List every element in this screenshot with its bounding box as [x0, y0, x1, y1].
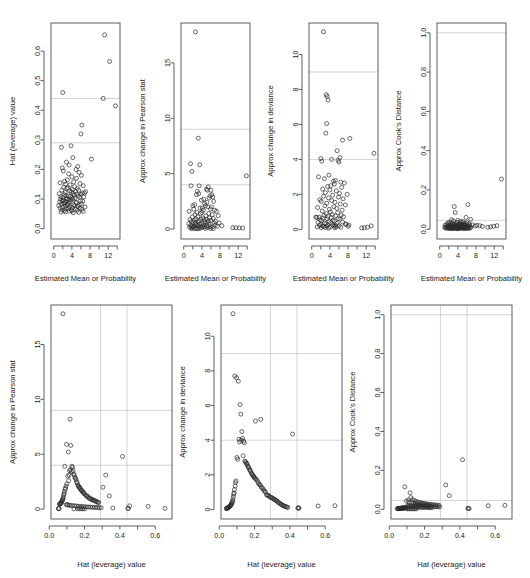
svg-text:0.0: 0.0 [214, 531, 224, 540]
svg-text:0.6: 0.6 [490, 531, 500, 540]
svg-text:0.2: 0.2 [420, 531, 430, 540]
svg-text:4: 4 [203, 438, 212, 442]
svg-text:0: 0 [52, 251, 56, 260]
x-axis: 0.00.20.40.6 [384, 526, 500, 540]
svg-text:0.0: 0.0 [33, 224, 42, 234]
reference-lines [51, 98, 120, 142]
svg-text:10: 10 [163, 114, 172, 122]
svg-text:0: 0 [291, 227, 300, 231]
svg-text:10: 10 [33, 395, 42, 403]
svg-text:12: 12 [234, 251, 242, 260]
y-axis-label: Hat (leverage) value [8, 97, 17, 165]
svg-text:0.2: 0.2 [250, 531, 260, 540]
x-axis: 0.00.20.40.6 [44, 526, 160, 540]
y-axis-label: Approx change in deviance [266, 85, 275, 177]
x-axis-label: Estimated Mean or Probability [293, 274, 394, 283]
diagnostic-plot-matrix: 048120.00.10.20.30.40.50.6Estimated Mean… [0, 0, 530, 578]
svg-text:8: 8 [218, 251, 222, 260]
y-axis-label: Approx change in Pearson stat [8, 359, 17, 464]
plot-box [221, 305, 342, 519]
svg-text:10: 10 [203, 332, 212, 340]
svg-text:0.2: 0.2 [373, 465, 382, 475]
svg-text:0.4: 0.4 [115, 531, 125, 540]
svg-text:6: 6 [203, 404, 212, 408]
svg-text:0.8: 0.8 [373, 349, 382, 359]
plot-box [437, 23, 506, 239]
svg-text:4: 4 [70, 251, 74, 260]
svg-text:2: 2 [203, 473, 212, 477]
svg-text:0.1: 0.1 [33, 194, 42, 204]
x-axis: 04812 [310, 246, 376, 260]
svg-text:0.4: 0.4 [419, 146, 428, 156]
plot-box [51, 305, 172, 519]
svg-text:0.4: 0.4 [373, 426, 382, 436]
svg-text:1.0: 1.0 [373, 310, 382, 320]
svg-text:8: 8 [203, 369, 212, 373]
scatter-panel-2: 04812051015Estimated Mean or Probability… [136, 14, 268, 286]
svg-text:0.0: 0.0 [44, 531, 54, 540]
data-points [224, 312, 337, 511]
x-axis: 04812 [182, 246, 248, 260]
svg-text:0.0: 0.0 [373, 504, 382, 514]
data-points [395, 458, 507, 511]
svg-text:8: 8 [346, 251, 350, 260]
data-points [443, 177, 504, 231]
y-axis: 0.00.10.20.30.40.50.6 [33, 46, 44, 234]
svg-text:0.0: 0.0 [384, 531, 394, 540]
reference-lines [309, 72, 378, 159]
svg-text:0.5: 0.5 [33, 76, 42, 86]
reference-lines [221, 305, 342, 519]
y-axis: 0246810 [203, 332, 214, 511]
svg-text:4: 4 [200, 251, 204, 260]
x-axis-label: Hat (leverage) value [417, 560, 485, 569]
svg-text:15: 15 [33, 341, 42, 349]
data-points [57, 33, 118, 215]
data-points [187, 30, 249, 231]
x-axis-label: Hat (leverage) value [77, 560, 145, 569]
y-axis: 0246810 [291, 50, 302, 231]
svg-text:0.2: 0.2 [33, 164, 42, 174]
y-axis: 051015 [163, 59, 174, 231]
svg-text:0.6: 0.6 [33, 46, 42, 56]
data-points [56, 312, 167, 511]
reference-lines [391, 305, 512, 519]
x-axis: 04812 [438, 246, 504, 260]
reference-lines [437, 33, 506, 221]
x-axis-label: Estimated Mean or Probability [165, 274, 266, 283]
svg-text:0: 0 [182, 251, 186, 260]
x-axis-label: Estimated Mean or Probability [35, 274, 136, 283]
svg-text:5: 5 [163, 172, 172, 176]
svg-text:12: 12 [490, 251, 498, 260]
scatter-panel-3: 048120246810Estimated Mean or Probabilit… [264, 14, 396, 286]
reference-lines [181, 129, 250, 184]
svg-text:0: 0 [310, 251, 314, 260]
svg-text:6: 6 [291, 122, 300, 126]
svg-text:0.6: 0.6 [373, 388, 382, 398]
scatter-panel-7: 0.00.20.40.60.00.20.40.60.81.0Hat (lever… [346, 296, 522, 572]
x-axis: 0.00.20.40.6 [214, 526, 330, 540]
svg-text:8: 8 [88, 251, 92, 260]
svg-text:15: 15 [163, 59, 172, 67]
svg-text:4: 4 [291, 157, 300, 161]
svg-text:0.4: 0.4 [33, 105, 42, 115]
reference-lines [51, 305, 172, 519]
svg-text:0.2: 0.2 [80, 531, 90, 540]
svg-text:0: 0 [438, 251, 442, 260]
svg-text:4: 4 [328, 251, 332, 260]
svg-text:4: 4 [456, 251, 460, 260]
svg-text:0: 0 [203, 507, 212, 511]
svg-text:0.2: 0.2 [419, 185, 428, 195]
y-axis: 0.00.20.40.60.81.0 [373, 310, 384, 515]
x-axis: 04812 [52, 246, 118, 260]
y-axis-label: Approx change in Pearson stat [138, 78, 147, 183]
svg-text:8: 8 [474, 251, 478, 260]
y-axis: 051015 [33, 341, 44, 512]
svg-text:5: 5 [33, 452, 42, 456]
svg-text:8: 8 [291, 87, 300, 91]
scatter-panel-6: 0.00.20.40.60246810Hat (leverage) valueA… [176, 296, 348, 572]
svg-text:2: 2 [291, 192, 300, 196]
svg-text:0.0: 0.0 [419, 224, 428, 234]
svg-text:0.6: 0.6 [419, 106, 428, 116]
y-axis-label: Approx change in deviance [178, 366, 187, 458]
svg-text:0: 0 [33, 507, 42, 511]
